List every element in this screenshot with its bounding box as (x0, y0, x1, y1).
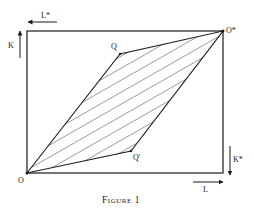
l-star-label: L* (41, 11, 50, 20)
origin-star-label: O* (226, 26, 236, 35)
origin-point (26, 172, 29, 175)
origin-label: O (18, 176, 24, 185)
k-star-label: K* (233, 155, 243, 164)
figure-caption: FIGURE1 (102, 195, 140, 205)
origin-star-point (222, 30, 225, 33)
q-prime-point (130, 150, 132, 152)
k-label: K (8, 41, 14, 50)
q-prime-label: Q' (133, 153, 141, 162)
q-point (119, 53, 121, 55)
l-label: L (203, 185, 208, 194)
q-label: Q (111, 42, 117, 51)
edgeworth-box-diagram: L* K K* L O O* Q Q' FIGURE1 (0, 0, 254, 210)
